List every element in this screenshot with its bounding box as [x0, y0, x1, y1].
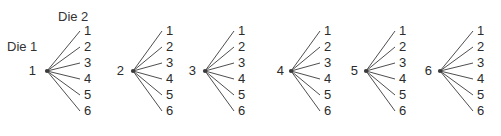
- tree-root-label: 5: [346, 64, 358, 77]
- tree-leaf-label: 1: [238, 24, 245, 37]
- die1-axis-label: Die 1: [7, 40, 37, 53]
- tree-leaf-label: 2: [477, 40, 484, 53]
- tree-leaf-label: 2: [238, 40, 245, 53]
- tree-leaf-label: 1: [84, 24, 91, 37]
- tree-leaf-label: 3: [477, 56, 484, 69]
- tree-leaf-label: 6: [166, 104, 173, 117]
- tree-leaf-label: 4: [84, 72, 91, 85]
- tree-vertex-dot: [203, 69, 207, 73]
- tree-leaf-label: 4: [324, 72, 331, 85]
- tree-leaf-label: 1: [166, 24, 173, 37]
- tree-leaf-label: 2: [399, 40, 406, 53]
- tree-root-label: 1: [24, 64, 36, 77]
- tree-leaf-label: 3: [166, 56, 173, 69]
- tree-leaf-label: 5: [399, 88, 406, 101]
- dice-tree-diagram: Die 2 Die 1 1 1 2 3 4 5 6 2 1 2 3 4 5 6 …: [0, 0, 501, 136]
- tree-vertex-dot: [131, 69, 135, 73]
- tree-leaf-label: 6: [399, 104, 406, 117]
- tree-leaf-label: 5: [166, 88, 173, 101]
- tree-root-label: 2: [112, 64, 124, 77]
- tree-leaf-label: 1: [477, 24, 484, 37]
- tree-leaf-label: 3: [84, 56, 91, 69]
- tree-leaf-label: 1: [324, 24, 331, 37]
- tree-root-label: 4: [272, 64, 284, 77]
- tree-vertex-dot: [364, 69, 368, 73]
- tree-leaf-label: 4: [399, 72, 406, 85]
- tree-leaf-label: 5: [84, 88, 91, 101]
- tree-leaf-label: 3: [324, 56, 331, 69]
- tree-leaf-label: 2: [324, 40, 331, 53]
- tree-root-label: 3: [184, 64, 196, 77]
- tree-vertex-dot: [438, 69, 442, 73]
- tree-vertex-dot: [45, 69, 49, 73]
- tree-leaf-label: 6: [238, 104, 245, 117]
- tree-leaf-label: 2: [166, 40, 173, 53]
- tree-leaf-label: 6: [477, 104, 484, 117]
- tree-leaf-label: 1: [399, 24, 406, 37]
- tree-leaf-label: 5: [238, 88, 245, 101]
- tree-leaf-label: 5: [477, 88, 484, 101]
- tree-leaf-label: 3: [238, 56, 245, 69]
- tree-vertex-dot: [289, 69, 293, 73]
- tree-leaf-label: 2: [84, 40, 91, 53]
- tree-root-label: 6: [420, 64, 432, 77]
- tree-leaf-label: 4: [166, 72, 173, 85]
- die2-axis-label: Die 2: [58, 10, 88, 23]
- tree-leaf-label: 4: [477, 72, 484, 85]
- tree-leaf-label: 5: [324, 88, 331, 101]
- tree-leaf-label: 3: [399, 56, 406, 69]
- tree-leaf-label: 4: [238, 72, 245, 85]
- tree-leaf-label: 6: [84, 104, 91, 117]
- tree-leaf-label: 6: [324, 104, 331, 117]
